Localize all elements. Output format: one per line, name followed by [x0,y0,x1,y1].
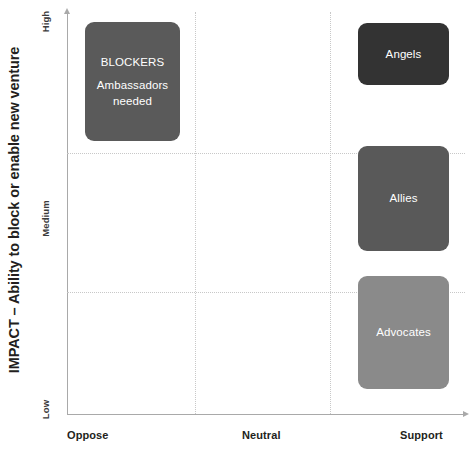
y-axis-title: IMPACT – Ability to block or enable new … [0,0,28,420]
y-axis-tick-high: High [40,5,51,39]
gridline-vertical-neutral-support [330,12,331,414]
quadrant-box-angels[interactable]: Angels [358,23,449,85]
gridline-vertical-oppose-neutral [195,12,196,414]
x-axis-tick-support: Support [400,429,443,441]
y-axis-tick-low: Low [40,394,51,426]
x-axis-line [67,414,465,415]
quadrant-box-advocates-label: Advocates [376,324,431,340]
y-axis-tick-medium: Medium [40,197,51,241]
quadrant-box-advocates[interactable]: Advocates [358,276,449,389]
x-axis-tick-neutral: Neutral [242,429,281,441]
y-axis-line [67,12,68,415]
quadrant-box-blockers[interactable]: BLOCKERS Ambassadors needed [85,22,180,141]
quadrant-box-blockers-sublabel-line2: needed [113,95,152,107]
quadrant-box-blockers-label: BLOCKERS [101,54,164,70]
x-axis-tick-oppose: Oppose [67,429,109,441]
x-axis-arrow-icon [463,411,469,417]
quadrant-box-blockers-sublabel: Ambassadors needed [97,77,168,110]
quadrant-box-blockers-sublabel-line1: Ambassadors [97,79,168,91]
quadrant-box-allies-label: Allies [389,190,417,206]
quadrant-box-angels-label: Angels [386,46,422,62]
quadrant-box-allies[interactable]: Allies [358,146,449,251]
stakeholder-matrix-chart: IMPACT – Ability to block or enable new … [0,0,475,462]
y-axis-arrow-icon [64,8,70,14]
